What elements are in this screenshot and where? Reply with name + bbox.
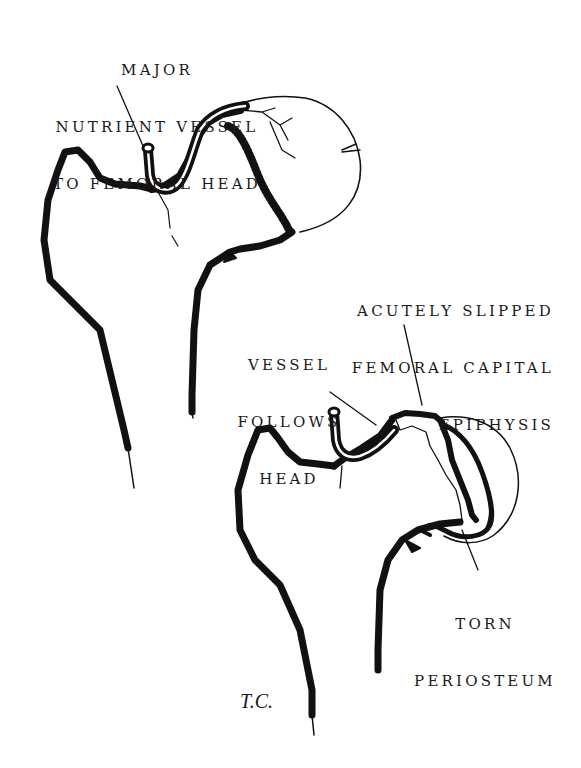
label-line: VESSEL [228, 356, 350, 375]
top-vessel-label: MAJOR NUTRIENT VESSEL TO FEMORAL HEAD [32, 23, 282, 232]
label-line: TORN [405, 615, 565, 634]
label-line: MAJOR [32, 61, 282, 80]
illustration-canvas: MAJOR NUTRIENT VESSEL TO FEMORAL HEAD AC… [0, 0, 581, 768]
label-line: NUTRIENT VESSEL [32, 118, 282, 137]
vessel-follows-head-label: VESSEL FOLLOWS HEAD [228, 318, 350, 527]
artist-signature: T.C. [240, 690, 273, 713]
label-line: FOLLOWS [228, 413, 350, 432]
torn-periosteum-label: TORN PERIOSTEUM [405, 577, 565, 729]
label-line: PERIOSTEUM [405, 672, 565, 691]
label-line: TO FEMORAL HEAD [32, 175, 282, 194]
label-line: HEAD [228, 470, 350, 489]
